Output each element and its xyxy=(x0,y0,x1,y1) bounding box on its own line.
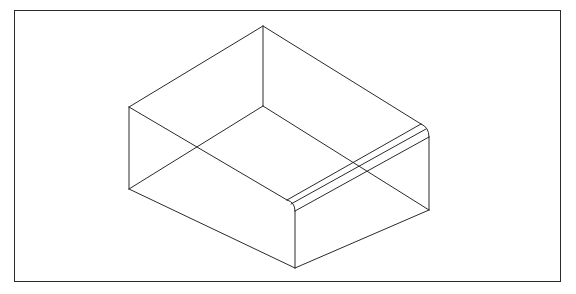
edge-inner-bottom-right xyxy=(263,106,429,210)
fillet-line-3 xyxy=(295,137,429,211)
fillet-line-1 xyxy=(287,124,421,200)
edge-top-front xyxy=(129,107,287,200)
fillet-line-2 xyxy=(291,129,426,204)
edge-top-right xyxy=(263,26,421,124)
fillet-front-corner xyxy=(287,200,295,211)
fillet-right-corner xyxy=(421,124,429,137)
edge-bottom-left xyxy=(129,189,295,268)
isometric-box-drawing xyxy=(0,0,576,294)
edge-top-left xyxy=(129,26,263,107)
edge-bottom-right xyxy=(295,210,429,268)
